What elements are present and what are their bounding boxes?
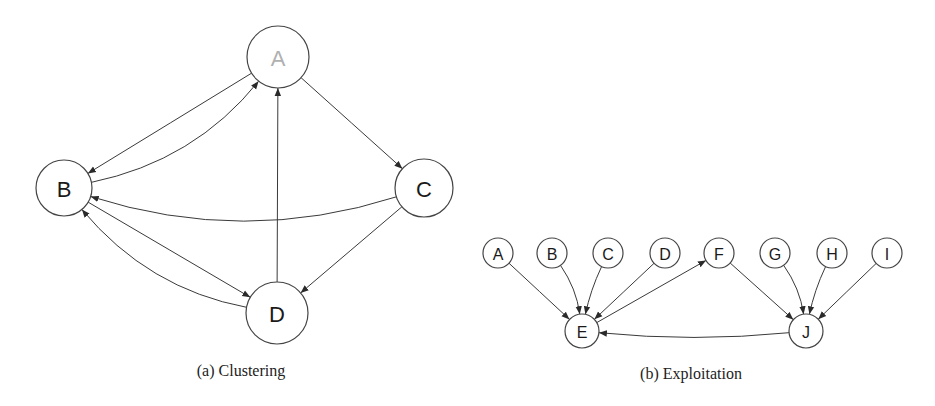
exploitation-node-h: H [817,238,847,268]
exploitation-edge-c-to-e [585,267,601,315]
clustering-edge-a-to-c [301,78,402,169]
clustering-edge-c-to-d [301,207,402,293]
clustering-graph: ABCD [36,26,453,344]
clustering-node-d: D [246,282,308,344]
node-label: A [271,46,286,71]
node-label: J [802,324,810,341]
exploitation-edge-i-to-j [818,263,876,319]
graph-diagrams: ABCD ABCDFGHIEJ [0,0,935,406]
clustering-node-b: B [36,160,92,216]
clustering-node-a: A [247,26,309,88]
node-label: B [547,246,558,263]
exploitation-edge-g-to-j [784,265,804,314]
clustering-edge-b-to-d [88,202,250,297]
node-label: D [659,246,671,263]
caption-exploitation: (b) Exploitation [640,365,742,383]
clustering-edge-d-to-a [277,88,278,282]
exploitation-edge-a-to-e [509,263,570,319]
node-label: A [493,246,504,263]
exploitation-node-j: J [789,314,823,348]
exploitation-edge-d-to-e [594,263,654,319]
node-label: D [269,302,285,327]
clustering-edge-d-to-b [82,210,247,308]
exploitation-edge-b-to-e [561,265,580,314]
exploitation-node-g: G [760,238,790,268]
exploitation-node-i: I [872,238,902,268]
exploitation-node-c: C [593,238,623,268]
clustering-edge-b-to-a [91,81,258,182]
exploitation-node-a: A [483,238,513,268]
node-label: B [57,177,72,202]
clustering-node-c: C [395,159,453,217]
node-label: C [602,246,614,263]
exploitation-edge-j-to-e [599,333,789,338]
clustering-edge-a-to-b [88,73,252,173]
exploitation-edge-h-to-j [809,267,825,315]
node-label: F [714,246,724,263]
exploitation-node-b: B [537,238,567,268]
figure-canvas: ABCD ABCDFGHIEJ (a) Clustering (b) Explo… [0,0,935,406]
clustering-edge-c-to-b [91,197,397,222]
node-label: I [885,246,889,263]
exploitation-node-e: E [565,314,599,348]
caption-clustering: (a) Clustering [197,362,285,380]
clustering-edges [82,73,402,307]
exploitation-graph: ABCDFGHIEJ [483,238,902,348]
exploitation-edge-f-to-j [730,263,793,320]
node-label: H [826,246,838,263]
node-label: E [577,324,588,341]
exploitation-edge-e-to-f [597,260,706,322]
exploitation-node-d: D [650,238,680,268]
exploitation-node-f: F [704,238,734,268]
node-label: G [769,246,781,263]
node-label: C [416,177,432,202]
